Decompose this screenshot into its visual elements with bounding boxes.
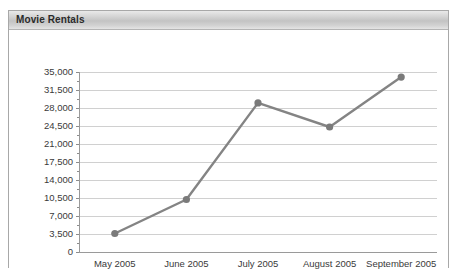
plot-area: 35,00031,50028,00024,50021,00017,50014,0… xyxy=(9,30,448,268)
data-point-marker xyxy=(254,99,261,106)
page-title: Movie Rentals xyxy=(16,14,85,25)
data-point-marker xyxy=(183,196,190,203)
panel-header: Movie Rentals xyxy=(9,11,448,30)
data-point-marker xyxy=(398,74,405,81)
data-point-marker xyxy=(111,230,118,237)
chart-panel: Movie Rentals 35,00031,50028,00024,50021… xyxy=(8,10,449,268)
line-series xyxy=(9,30,450,268)
data-point-marker xyxy=(326,123,333,130)
